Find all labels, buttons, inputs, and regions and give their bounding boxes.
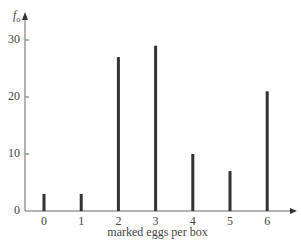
bars	[43, 46, 269, 211]
y-tick-label: 20	[0, 89, 20, 104]
axes	[22, 12, 297, 214]
y-tick-label: 10	[0, 146, 20, 161]
bar-2	[117, 57, 120, 211]
y-axis-title-sub: o	[16, 15, 20, 24]
y-tick-label: 0	[0, 203, 20, 218]
bar-0	[43, 194, 46, 211]
stem-chart: fo 0102030 0123456 marked eggs per box	[0, 0, 301, 244]
y-tick-label: 30	[0, 32, 20, 47]
bar-5	[229, 171, 232, 211]
x-axis-title: marked eggs per box	[0, 225, 301, 240]
bar-4	[191, 154, 194, 211]
bar-3	[154, 46, 157, 211]
bar-1	[80, 194, 83, 211]
y-axis-title: fo	[13, 8, 20, 24]
x-axis-arrow-icon	[290, 208, 297, 214]
chart-canvas	[0, 0, 301, 244]
bar-6	[266, 91, 269, 211]
y-axis-arrow-icon	[22, 12, 28, 20]
